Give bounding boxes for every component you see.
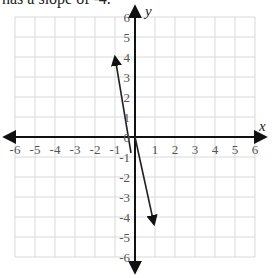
x-tick-label: 2 — [172, 142, 179, 157]
y-tick-label: 0 — [124, 130, 131, 145]
y-tick-label: -4 — [119, 210, 130, 225]
x-tick-label: -5 — [30, 142, 41, 157]
y-tick-label: -5 — [119, 230, 130, 245]
y-tick-label: 6 — [124, 10, 131, 25]
x-tick-label: -6 — [10, 142, 21, 157]
y-tick-label: -3 — [119, 190, 130, 205]
x-tick-label: -2 — [90, 142, 101, 157]
x-tick-label: 5 — [232, 142, 239, 157]
x-tick-label: -3 — [70, 142, 81, 157]
x-tick-label: 1 — [152, 142, 159, 157]
x-axis-label: x — [258, 118, 266, 134]
coordinate-plane: -6-5-4-3-2-1123456 6543210-1-2-3-4-5-6 x… — [0, 0, 272, 278]
y-tick-label: -1 — [119, 150, 130, 165]
y-tick-label: 5 — [124, 30, 131, 45]
y-tick-label: -2 — [119, 170, 130, 185]
y-tick-label: 2 — [124, 90, 131, 105]
x-tick-label: 4 — [212, 142, 219, 157]
y-tick-label: 4 — [124, 50, 131, 65]
y-tick-label: 3 — [124, 70, 131, 85]
x-tick-label: 3 — [192, 142, 199, 157]
x-tick-label: 6 — [252, 142, 259, 157]
y-tick-label: -6 — [119, 250, 130, 265]
y-axis-label: y — [143, 3, 152, 19]
x-tick-label: -4 — [50, 142, 61, 157]
y-tick-label: 1 — [124, 110, 131, 125]
